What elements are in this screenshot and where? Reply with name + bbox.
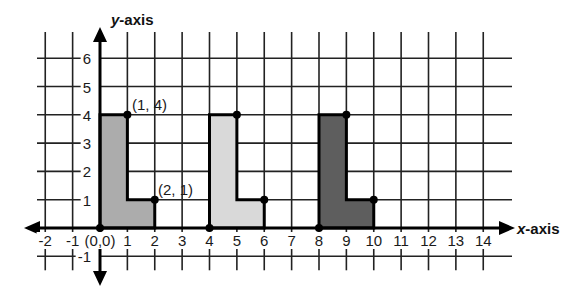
y-tick-label: 4	[83, 107, 91, 124]
x-tick-label: 11	[393, 232, 409, 249]
x-axis-right-arrow-icon	[499, 221, 515, 235]
vertex-dot	[370, 196, 378, 204]
x-tick-label: 9	[342, 232, 350, 249]
x-tick-label: 1	[123, 232, 131, 249]
y-axis-label: y-axis	[110, 11, 154, 28]
x-tick-label: 10	[365, 232, 382, 249]
x-tick-label: 13	[448, 232, 465, 249]
x-tick-label: 4	[205, 232, 213, 249]
x-axis-label: x-axis	[516, 220, 560, 237]
y-axis-down-arrow-icon	[93, 271, 107, 286]
x-tick-label: 7	[287, 232, 295, 249]
x-tick-label: 5	[233, 232, 241, 249]
x-tick-label: 2	[151, 232, 159, 249]
x-tick-label: 8	[315, 232, 323, 249]
y-tick-label: 6	[83, 50, 91, 67]
x-tick-label: (0,0)	[85, 232, 116, 249]
y-tick-label: -1	[78, 248, 91, 265]
x-tick-label: 6	[260, 232, 268, 249]
y-tick-label: 3	[83, 135, 91, 152]
y-axis-up-arrow-icon	[93, 27, 107, 42]
vertex-dot	[233, 111, 241, 119]
x-tick-label: 12	[420, 232, 437, 249]
vertex-dot	[342, 111, 350, 119]
vertex-dot	[123, 111, 131, 119]
vertex-dot	[260, 196, 268, 204]
point-label-1-4: (1, 4)	[132, 96, 167, 113]
x-tick-label: 3	[178, 232, 186, 249]
coordinate-grid: -2-1(0,0)1234567891011121314-1123456 y-a…	[0, 0, 585, 293]
point-label-2-1: (2, 1)	[158, 181, 193, 198]
y-tick-label: 5	[83, 79, 91, 96]
y-tick-label: 2	[83, 163, 91, 180]
x-tick-label: -1	[66, 232, 79, 249]
x-tick-label: 14	[475, 232, 492, 249]
x-tick-label: -2	[39, 232, 52, 249]
y-tick-label: 1	[83, 192, 91, 209]
